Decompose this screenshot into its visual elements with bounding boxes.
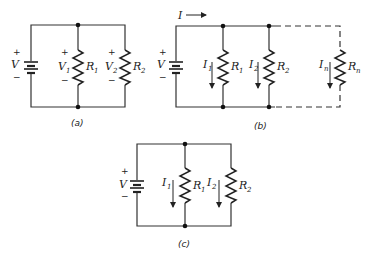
- resistor-icon: [218, 50, 228, 85]
- node-dot: [267, 24, 272, 29]
- plus-sign: +: [61, 47, 69, 57]
- svg-text:1: 1: [201, 186, 205, 194]
- wire-branch-b: [223, 26, 269, 107]
- resistor-label: R: [238, 179, 247, 192]
- node-dot: [183, 224, 188, 229]
- parallel-circuits-figure: + V − + V 1 − R 1 + V 2 − R 2 (a) I: [0, 0, 369, 261]
- minus-sign: −: [159, 72, 167, 82]
- node-dot: [76, 23, 81, 28]
- resistor-icon: [335, 50, 345, 85]
- minus-sign: −: [108, 75, 116, 85]
- resistor-label: R: [85, 60, 94, 73]
- node-dot: [183, 142, 188, 147]
- minus-sign: −: [13, 72, 21, 82]
- svg-text:n: n: [324, 65, 329, 73]
- resistor-label: R: [192, 179, 201, 192]
- node-dot: [221, 105, 226, 110]
- minus-sign: −: [61, 75, 69, 85]
- source-label: V: [119, 178, 128, 191]
- svg-text:2: 2: [246, 186, 252, 194]
- plus-sign: +: [159, 47, 167, 57]
- circuit-c: + V − I 1 R 1 I 2 R 2 (c): [119, 142, 252, 249]
- resistor-icon: [226, 168, 236, 203]
- resistor-label: R: [347, 60, 356, 73]
- resistor-icon: [180, 168, 190, 203]
- battery-icon: [169, 62, 183, 73]
- plus-sign: +: [108, 47, 116, 57]
- svg-text:2: 2: [140, 67, 146, 75]
- svg-text:2: 2: [284, 67, 290, 75]
- resistor-label: R: [132, 60, 141, 73]
- battery-icon: [24, 62, 38, 73]
- svg-text:1: 1: [94, 67, 98, 75]
- node-dot: [221, 24, 226, 29]
- svg-text:2: 2: [112, 67, 118, 75]
- battery-icon: [130, 181, 144, 192]
- circuit-b: I + V − I 1 R 1 I 2 R 2 I n R: [157, 9, 361, 131]
- source-label: V: [157, 58, 166, 71]
- resistor-icon: [120, 50, 130, 85]
- svg-text:2: 2: [211, 183, 217, 191]
- svg-text:n: n: [356, 67, 361, 75]
- plus-sign: +: [13, 47, 21, 57]
- circuit-a: + V − + V 1 − R 1 + V 2 − R 2 (a): [11, 23, 146, 128]
- resistor-icon: [73, 50, 83, 85]
- node-dot: [76, 105, 81, 110]
- wire-loop-c: [137, 144, 231, 226]
- plus-sign: +: [121, 166, 129, 176]
- node-dot: [267, 105, 272, 110]
- panel-caption: (c): [178, 239, 190, 249]
- resistor-label: R: [230, 60, 239, 73]
- panel-caption: (b): [254, 121, 267, 131]
- panel-caption: (a): [71, 118, 84, 128]
- svg-text:1: 1: [66, 67, 70, 75]
- resistor-label: R: [276, 60, 285, 73]
- wire-loop-b: [176, 26, 275, 107]
- resistor-icon: [264, 50, 274, 85]
- svg-text:1: 1: [167, 183, 171, 191]
- source-label: V: [11, 58, 20, 71]
- svg-text:1: 1: [239, 67, 243, 75]
- minus-sign: −: [121, 191, 129, 201]
- total-current-label: I: [177, 9, 183, 22]
